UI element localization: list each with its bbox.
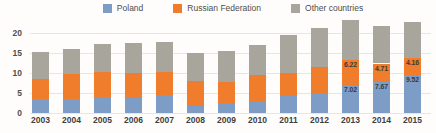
y-axis-tick-20: 20 — [2, 28, 22, 38]
data-label-russian-federation-2015: 4.16 — [402, 59, 423, 67]
data-label-russian-federation-2013: 6.22 — [340, 61, 361, 69]
y-axis-tick-15: 15 — [2, 48, 22, 58]
y-axis-tick-10: 10 — [2, 68, 22, 78]
x-axis-label-2005: 2005 — [87, 115, 118, 125]
bar-segment-poland-2009 — [218, 103, 235, 113]
bar-segment-poland-2010 — [249, 101, 266, 113]
bar-segment-other-countries-2004 — [63, 49, 80, 73]
bar-segment-russian-federation-2008 — [187, 81, 204, 106]
bar-segment-other-countries-2008 — [187, 53, 204, 81]
bar-segment-other-countries-2015 — [404, 22, 421, 58]
bar-segment-other-countries-2009 — [218, 51, 235, 82]
legend-swatch-other-countries — [291, 4, 300, 13]
stacked-bar-chart: PolandRussian FederationOther countries … — [0, 0, 436, 133]
bar-segment-russian-federation-2009 — [218, 82, 235, 103]
bar-segment-russian-federation-2004 — [63, 74, 80, 99]
bar-segment-poland-2012 — [311, 93, 328, 113]
bar-segment-poland-2004 — [63, 99, 80, 113]
x-axis-label-2011: 2011 — [273, 115, 304, 125]
y-axis-tick-0: 0 — [2, 108, 22, 118]
bar-segment-other-countries-2010 — [249, 45, 266, 75]
bar-segment-poland-2003 — [32, 99, 49, 113]
legend-item-other-countries: Other countries — [291, 3, 363, 13]
bar-segment-other-countries-2014 — [373, 26, 390, 64]
x-axis-label-2012: 2012 — [304, 115, 335, 125]
bar-segment-other-countries-2012 — [311, 28, 328, 67]
legend: PolandRussian FederationOther countries — [30, 2, 436, 14]
x-axis-label-2006: 2006 — [118, 115, 149, 125]
bar-segment-russian-federation-2012 — [311, 67, 328, 93]
x-axis-label-2009: 2009 — [211, 115, 242, 125]
bar-segment-russian-federation-2006 — [125, 73, 142, 98]
x-axis-label-2007: 2007 — [149, 115, 180, 125]
bar-segment-poland-2005 — [94, 97, 111, 113]
bar-segment-russian-federation-2005 — [94, 72, 111, 97]
bar-segment-other-countries-2005 — [94, 44, 111, 72]
data-label-poland-2013: 7.02 — [340, 86, 361, 94]
gridline-0 — [30, 113, 431, 114]
bar-segment-poland-2007 — [156, 95, 173, 113]
gridline-20 — [30, 33, 431, 34]
bar-segment-other-countries-2003 — [32, 52, 49, 79]
bar-segment-poland-2011 — [280, 96, 297, 113]
data-label-poland-2015: 9.52 — [402, 76, 423, 84]
legend-item-poland: Poland — [103, 3, 143, 13]
bar-segment-russian-federation-2003 — [32, 79, 49, 99]
x-axis-label-2013: 2013 — [335, 115, 366, 125]
legend-label-poland: Poland — [117, 3, 143, 13]
x-axis-label-2015: 2015 — [397, 115, 428, 125]
x-axis-label-2008: 2008 — [180, 115, 211, 125]
y-axis-tick-5: 5 — [2, 88, 22, 98]
bar-segment-russian-federation-2011 — [280, 73, 297, 95]
bar-segment-other-countries-2007 — [156, 42, 173, 72]
data-label-poland-2014: 7.67 — [371, 83, 392, 91]
bar-segment-other-countries-2006 — [125, 43, 142, 72]
x-axis-label-2010: 2010 — [242, 115, 273, 125]
bar-segment-poland-2008 — [187, 106, 204, 113]
x-axis-label-2004: 2004 — [56, 115, 87, 125]
x-axis-label-2014: 2014 — [366, 115, 397, 125]
legend-label-other-countries: Other countries — [305, 3, 363, 13]
bar-segment-poland-2006 — [125, 98, 142, 113]
legend-swatch-russian-federation — [173, 4, 182, 13]
x-axis-label-2003: 2003 — [25, 115, 56, 125]
bar-segment-russian-federation-2007 — [156, 72, 173, 95]
data-label-russian-federation-2014: 4.71 — [371, 65, 392, 73]
legend-swatch-poland — [103, 4, 112, 13]
bar-segment-other-countries-2013 — [342, 20, 359, 60]
legend-item-russian-federation: Russian Federation — [173, 3, 261, 13]
bar-segment-other-countries-2011 — [280, 35, 297, 73]
bar-segment-russian-federation-2010 — [249, 75, 266, 101]
legend-label-russian-federation: Russian Federation — [187, 3, 261, 13]
